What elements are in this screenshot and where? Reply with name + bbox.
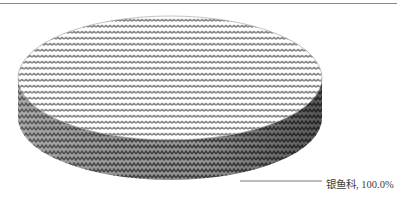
slice-data-label: 银鱼科, 100.0% <box>326 176 394 191</box>
pie-slice-top <box>18 16 322 140</box>
pie-chart-3d <box>0 0 397 198</box>
